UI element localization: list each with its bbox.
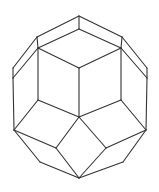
edge-line <box>79 16 122 37</box>
edge-line <box>146 78 147 130</box>
edge-line <box>14 130 40 162</box>
edge-line <box>14 130 56 148</box>
edge-line <box>14 100 38 130</box>
edge-line <box>121 100 146 130</box>
edge-line <box>79 48 121 68</box>
edge-line <box>121 37 122 48</box>
edge-line <box>38 100 79 117</box>
edge-line <box>79 100 121 117</box>
edge-line <box>79 117 106 148</box>
polyhedron-diagram <box>0 0 159 192</box>
edge-line <box>38 48 79 68</box>
edge-line <box>79 29 121 48</box>
edge-line <box>56 117 79 148</box>
edge-line <box>37 16 79 37</box>
edge-line <box>38 29 79 48</box>
edge-line <box>13 78 14 130</box>
edge-line <box>37 37 38 48</box>
